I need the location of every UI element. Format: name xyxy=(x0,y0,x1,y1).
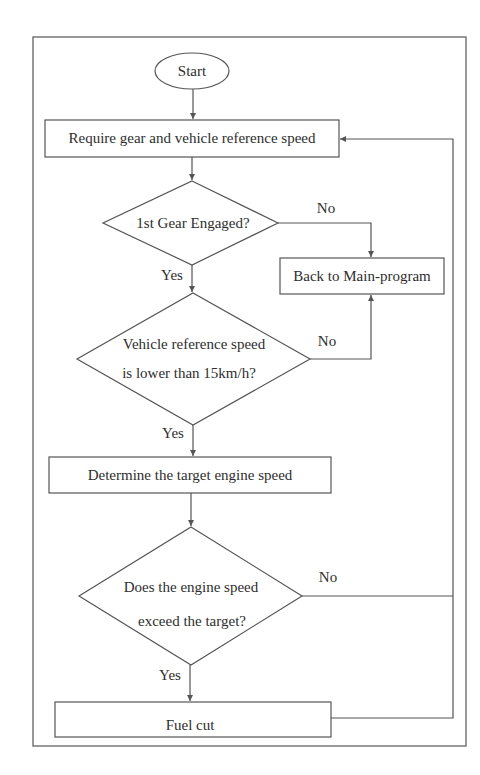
start-node-label: Start xyxy=(178,62,206,80)
speed-check-label-line1: Vehicle reference speed xyxy=(123,335,265,353)
fuel-cut-label: Fuel cut xyxy=(166,716,215,734)
speed-check-label-line2: is lower than 15km/h? xyxy=(122,364,256,382)
engine-yes-label: Yes xyxy=(159,666,181,684)
gear-check-label: 1st Gear Engaged? xyxy=(136,214,249,232)
engine-no-label: No xyxy=(319,568,337,586)
engine-check-label-line2: exceed the target? xyxy=(138,612,246,630)
determine-node-label: Determine the target engine speed xyxy=(88,466,293,484)
gear-yes-label: Yes xyxy=(161,266,183,284)
flowchart-canvas xyxy=(0,0,480,775)
gear-no-label: No xyxy=(317,199,335,217)
engine-check-shape xyxy=(79,527,302,665)
require-node-label: Require gear and vehicle reference speed xyxy=(69,129,316,147)
engine-check-label-line1: Does the engine speed xyxy=(124,578,259,596)
speed-check-shape xyxy=(77,293,310,425)
back-main-label: Back to Main-program xyxy=(293,267,430,285)
speed-yes-label: Yes xyxy=(162,424,184,442)
speed-no-label: No xyxy=(318,332,336,350)
